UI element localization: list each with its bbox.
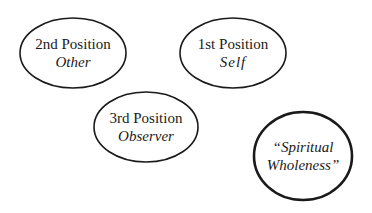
node-subtitle: Wholeness” — [267, 156, 340, 174]
node-2nd-position: 2nd Position Other — [20, 18, 126, 88]
node-title: 3rd Position — [110, 109, 183, 127]
node-spiritual-wholeness: “Spiritual Wholeness” — [254, 112, 352, 200]
node-1st-position: 1st Position Self — [180, 18, 286, 88]
node-title: 2nd Position — [35, 35, 110, 53]
node-subtitle: Self — [220, 53, 247, 71]
node-3rd-position: 3rd Position Observer — [94, 92, 198, 162]
node-subtitle: Other — [56, 53, 91, 71]
node-subtitle: Observer — [118, 127, 174, 145]
node-title: “Spiritual — [273, 138, 334, 156]
node-title: 1st Position — [198, 35, 268, 53]
